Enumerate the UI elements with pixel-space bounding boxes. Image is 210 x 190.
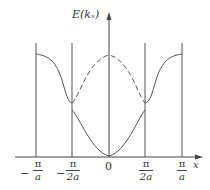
- upper-band-left: [36, 54, 72, 103]
- tick-pi-a: π a: [177, 159, 187, 182]
- band-structure-diagram: E(kₓ) x 0 − π a − π 2a π 2a π a: [0, 0, 210, 190]
- origin-label: 0: [105, 161, 112, 172]
- tick-neg-pi-a-sign: −: [20, 167, 29, 180]
- tick-pi-2a: π 2a: [139, 159, 153, 182]
- y-axis-label: E(kₓ): [72, 9, 99, 20]
- upper-band-right: [145, 54, 182, 103]
- tick-neg-pi-a: π a: [33, 159, 43, 182]
- tick-neg-pi-2a: π 2a: [66, 159, 80, 182]
- y-axis-arrow-icon: [107, 12, 112, 20]
- x-axis-label: x: [193, 160, 199, 170]
- tick-neg-pi-2a-sign: −: [56, 167, 65, 180]
